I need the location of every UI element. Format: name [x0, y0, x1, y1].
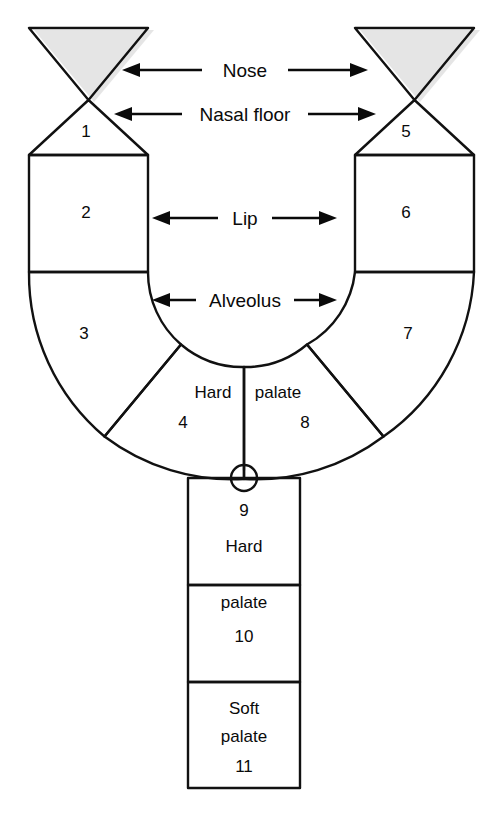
arrow-alveolus: Alveolus	[152, 287, 337, 313]
arrow-label-nose: Nose	[223, 60, 267, 81]
segment-label-9: 9	[239, 501, 248, 520]
segment-9-hard-palate-center	[188, 478, 300, 585]
segment-7-alveolus-right	[307, 272, 474, 437]
segment-4-hard-palate-left	[105, 345, 245, 480]
segment-8-hard-palate-right	[244, 345, 384, 480]
arrow-nasal-floor-head-left	[114, 107, 132, 121]
segment-label-7: 7	[403, 324, 412, 343]
arrow-label-alveolus: Alveolus	[209, 290, 281, 311]
segment-label-6: 6	[401, 203, 410, 222]
segment-label-2: 2	[81, 203, 90, 222]
segment-10-word-palate: palate	[221, 593, 267, 612]
arrow-nasal-floor-head-right	[358, 107, 376, 121]
hard-palate-word-right: palate	[255, 383, 301, 402]
segment-label-1: 1	[81, 122, 90, 141]
arrow-nose: Nose	[122, 57, 368, 83]
arrow-nasal-floor: Nasal floor	[114, 101, 376, 127]
segment-11-word-palate: palate	[221, 727, 267, 746]
arrow-label-lip: Lip	[232, 208, 257, 229]
segment-11-word-soft: Soft	[229, 699, 260, 718]
arrow-label-nasal-floor: Nasal floor	[200, 104, 291, 125]
arrow-lip: Lip	[152, 205, 337, 231]
arrow-lip-head-left	[152, 211, 170, 225]
arrow-alveolus-head-right	[319, 293, 337, 307]
hard-palate-word-left: Hard	[195, 383, 232, 402]
segment-6-lip-right	[355, 155, 474, 272]
segment-label-4: 4	[178, 413, 187, 432]
arrow-lip-head-right	[319, 211, 337, 225]
segment-label-10: 10	[235, 627, 254, 646]
segment-label-8: 8	[300, 413, 309, 432]
segment-9-word-hard: Hard	[226, 537, 263, 556]
segment-label-3: 3	[79, 324, 88, 343]
segment-label-11: 11	[235, 757, 253, 776]
segment-5-nasal-floor-right	[355, 100, 474, 155]
arrow-nose-head-right	[350, 63, 368, 77]
cleft-classification-diagram: Nose Nasal floor Lip Alveolus 1	[0, 0, 489, 822]
segment-label-5: 5	[401, 122, 410, 141]
diagram-canvas: Nose Nasal floor Lip Alveolus 1	[0, 0, 489, 822]
segment-3-alveolus-left	[29, 272, 181, 437]
